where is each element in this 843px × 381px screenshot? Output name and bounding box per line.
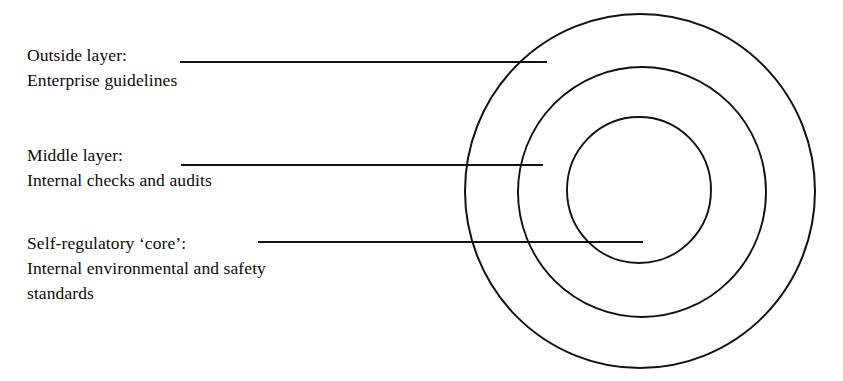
callout-outside-layer-line2: Enterprise guidelines: [27, 68, 177, 93]
callout-core-layer-line3: standards: [27, 281, 266, 306]
callout-outside-layer-line1: Outside layer:: [27, 43, 177, 68]
callout-core-layer-line2: Internal environmental and safety: [27, 256, 266, 281]
callout-middle-layer-line2: Internal checks and audits: [27, 168, 212, 193]
middle-ring: [518, 67, 766, 317]
callout-outside-layer: Outside layer: Enterprise guidelines: [27, 43, 177, 93]
callout-core-layer-line1: Self-regulatory ‘core’:: [27, 231, 266, 256]
callout-middle-layer-line1: Middle layer:: [27, 143, 212, 168]
diagram-canvas: Outside layer: Enterprise guidelines Mid…: [0, 0, 843, 381]
callout-middle-layer: Middle layer: Internal checks and audits: [27, 143, 212, 193]
callout-core-layer: Self-regulatory ‘core’: Internal environ…: [27, 231, 266, 306]
